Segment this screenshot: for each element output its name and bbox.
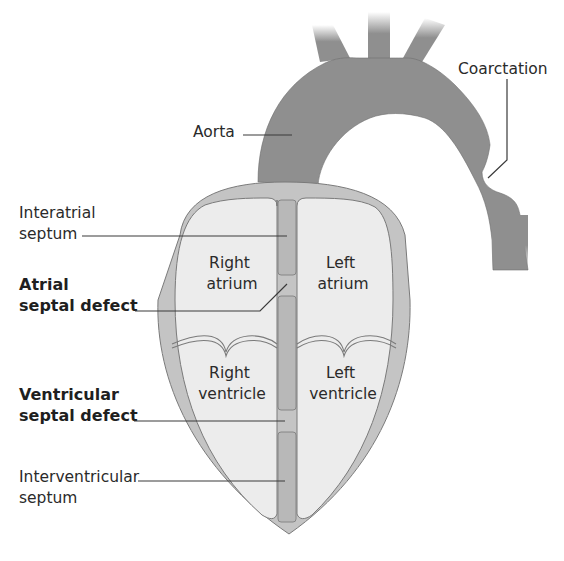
coarctation-label: Coarctation xyxy=(458,60,548,78)
interventricular-septum xyxy=(278,432,296,522)
ventricular-septal-defect-label: Ventricular septal defect xyxy=(19,385,138,425)
interatrial-septum xyxy=(278,200,296,275)
aortic-branch-3 xyxy=(403,18,445,62)
interatrial-septum-label: Interatrial septum xyxy=(19,204,100,243)
right-heart-chamber xyxy=(175,198,277,519)
septum-middle xyxy=(278,296,296,410)
interventricular-septum-label: Interventricular septum xyxy=(19,468,144,507)
atrial-septal-defect-label: Atrial septal defect xyxy=(19,275,138,315)
aortic-branch-2 xyxy=(368,12,390,60)
aorta-label: Aorta xyxy=(193,123,235,141)
descending-aorta xyxy=(492,215,528,270)
heart-diagram: Right atrium Left atrium Right ventricle… xyxy=(0,0,564,561)
aortic-branch-1 xyxy=(312,25,350,62)
coarctation-leader xyxy=(488,79,507,178)
left-heart-chamber xyxy=(297,198,393,519)
